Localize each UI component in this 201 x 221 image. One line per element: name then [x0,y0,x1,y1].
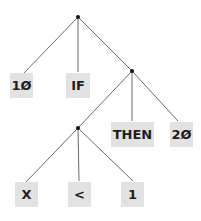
then-clause-node [130,69,134,73]
leaf-20: 2Ø [170,122,193,147]
leaf-1: 1 [121,182,144,207]
leaf-x: X [15,182,38,207]
condition-node [76,126,80,130]
leaf-then: THEN [111,122,154,147]
leaf-10: 1Ø [10,73,33,98]
root-node [76,15,80,19]
leaf-if: IF [66,73,90,98]
leaf-less-than: < [68,182,91,207]
